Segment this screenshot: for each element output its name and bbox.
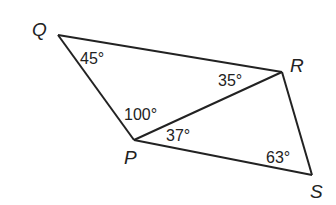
vertex-label-q: Q: [32, 19, 47, 40]
angle-label-s: 63°: [266, 149, 290, 166]
vertex-label-r: R: [290, 55, 304, 76]
vertex-label-p: P: [124, 147, 137, 168]
angle-label-rps: 37°: [166, 127, 190, 144]
geometry-diagram: Q R P S 45° 35° 100° 37° 63°: [0, 0, 336, 205]
angle-label-q: 45°: [80, 50, 104, 67]
angle-label-qrp: 35°: [218, 72, 242, 89]
angle-label-qpr: 100°: [124, 106, 157, 123]
vertex-label-s: S: [310, 181, 323, 202]
